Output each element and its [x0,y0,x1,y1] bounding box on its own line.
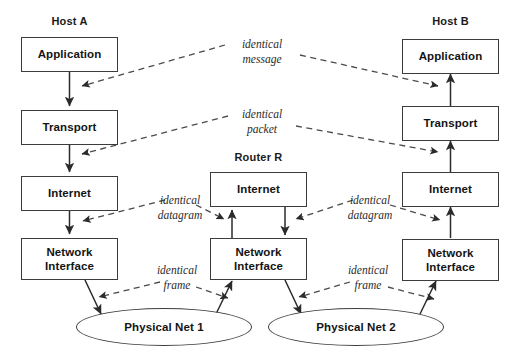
host-a-network-interface-label-line2: Interface [45,259,94,273]
host-b-network-interface-label-line1: Network [427,246,473,260]
annotation-identical-datagram-left-line2: datagram [140,208,220,223]
host-a-transport-box[interactable]: Transport [21,110,118,145]
router-r-internet-box[interactable]: Internet [210,172,307,207]
annotation-identical-packet: identical packet [222,107,302,137]
host-b-application-box[interactable]: Application [402,39,499,74]
host-a-network-interface-box[interactable]: Network Interface [21,238,118,280]
host-a-application-box[interactable]: Application [21,37,118,72]
host-b-internet-label: Internet [429,182,472,196]
annotation-identical-frame-right-line2: frame [328,278,408,293]
physical-net-2-label: Physical Net 2 [316,321,395,333]
host-a-transport-label: Transport [43,120,97,134]
host-a-internet-label: Internet [48,186,91,200]
net2-to-host-b-arrow [420,281,436,314]
column-heading-host-a: Host A [21,15,118,27]
host-b-transport-box[interactable]: Transport [402,106,499,141]
annotation-identical-frame-right: identical frame [328,263,408,293]
annotation-identical-message-line2: message [222,52,302,67]
host-a-internet-box[interactable]: Internet [21,176,118,211]
annotation-identical-datagram-right: identical datagram [330,193,410,223]
host-b-network-interface-box[interactable]: Network Interface [402,239,499,281]
annotation-identical-message: identical message [222,37,302,67]
protocol-layering-diagram: Host B application-in --> Host B transpo… [0,0,519,363]
host-b-internet-box[interactable]: Internet [402,172,499,207]
host-b-network-interface-label-line2: Interface [426,260,475,274]
router-r-network-interface-box[interactable]: Network Interface [210,238,307,280]
annotation-identical-packet-line2: packet [222,122,302,137]
annotation-identical-datagram-right-line2: datagram [330,208,410,223]
annotation-identical-datagram-left: identical datagram [140,193,220,223]
column-heading-host-b: Host B [402,15,499,27]
column-heading-router-r: Router R [210,151,307,163]
router-r-network-interface-label-line2: Interface [234,259,283,273]
annotation-identical-frame-left-line2: frame [137,278,217,293]
host-a-network-interface-label-line1: Network [46,245,92,259]
annotation-identical-frame-right-line1: identical [328,263,408,278]
host-b-application-label: Application [419,49,483,63]
physical-net-2-ellipse[interactable]: Physical Net 2 [268,308,444,346]
annotation-identical-message-line1: identical [222,37,302,52]
annotation-identical-datagram-left-line1: identical [140,193,220,208]
physical-net-1-label: Physical Net 1 [124,321,203,333]
annotation-identical-frame-left-line1: identical [137,263,217,278]
host-b-transport-label: Transport [424,116,478,130]
physical-net-1-ellipse[interactable]: Physical Net 1 [76,308,252,346]
router-r-network-interface-label-line1: Network [235,245,281,259]
router-r-internet-label: Internet [237,182,280,196]
annotation-identical-frame-left: identical frame [137,263,217,293]
annotation-identical-datagram-right-line1: identical [330,193,410,208]
host-a-to-net1-arrow [85,280,101,314]
annotation-identical-packet-line1: identical [222,107,302,122]
host-a-application-label: Application [38,47,102,61]
